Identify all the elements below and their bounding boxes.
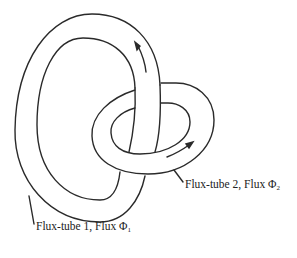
flux-tube-diagram: Flux-tube 2, Flux Φ2 Flux-tube 1, Flux Φ…: [0, 0, 297, 258]
phi-subscript-2: 2: [276, 184, 280, 192]
tube2-leader-line: [174, 170, 183, 182]
tube2-label: Flux-tube 2, Flux Φ2: [185, 178, 280, 194]
tube1-inner-edge: [37, 38, 135, 200]
tube1-strand-left: [129, 88, 135, 152]
tube2-inner-edge: [111, 103, 190, 154]
tube2-outer-edge: [92, 83, 214, 174]
tube1-label: Flux-tube 1, Flux Φ1: [36, 220, 131, 236]
tube2-label-text: Flux-tube 2, Flux: [185, 178, 268, 190]
tube1-label-text: Flux-tube 1, Flux: [36, 220, 119, 232]
phi-subscript-1: 1: [127, 226, 131, 234]
tube1-leader-line: [29, 196, 34, 224]
tube1-strand-right: [155, 85, 160, 152]
tube1-arrow-shaft: [138, 46, 146, 72]
tube2-arrow-shaft: [167, 145, 189, 157]
